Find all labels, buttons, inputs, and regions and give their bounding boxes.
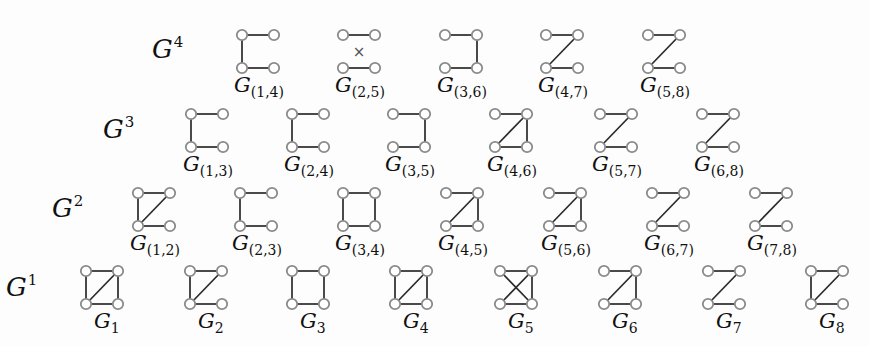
edge-diag (495, 114, 527, 147)
vertex-node (133, 188, 143, 198)
vertex-node (338, 30, 348, 40)
vertex-node (729, 109, 739, 119)
vertex-node (235, 188, 245, 198)
vertex-node (287, 109, 297, 119)
vertex-node (473, 221, 483, 231)
graph-5-7: G(5,7) (592, 109, 642, 179)
graph-label: G(1,4) (234, 73, 284, 100)
edge-diag (446, 193, 478, 226)
vertex-node (319, 142, 329, 152)
graph-6: G6 (599, 266, 641, 336)
graph-label: G(5,8) (640, 73, 690, 100)
vertex-node (627, 142, 637, 152)
vertex-node (627, 109, 637, 119)
level-label-sup: 1 (28, 271, 38, 289)
graph-3: G3 (287, 266, 329, 336)
graph-8: G8 (806, 266, 848, 336)
graph-label: G(3,4) (335, 231, 385, 258)
graph-label: G(1,3) (183, 152, 233, 179)
edge-diag (708, 271, 740, 304)
graph-label: G(2,4) (284, 152, 334, 179)
vertex-node (472, 30, 482, 40)
vertex-node (338, 63, 348, 73)
graph-4-5: G(4,5) (438, 188, 488, 258)
vertex-node (441, 221, 451, 231)
edge-diag (600, 114, 632, 147)
graph-label-sub: 6 (629, 320, 638, 336)
vertex-node (544, 221, 554, 231)
vertex-node (647, 188, 657, 198)
vertex-node (679, 221, 689, 231)
vertex-node (838, 299, 848, 309)
vertex-node (370, 221, 380, 231)
vertex-node (185, 266, 195, 276)
graph-label-sub: (4,6) (504, 163, 537, 179)
graph-label: G(4,6) (487, 152, 537, 179)
vertex-node (440, 30, 450, 40)
vertex-node (495, 266, 505, 276)
vertex-node (782, 221, 792, 231)
level-row-3: G3G(1,3)G(2,4)G(3,5)G(4,6)G(5,7)G(6,8) (103, 109, 744, 179)
graph-3-5: G(3,5) (385, 109, 435, 179)
vertex-node (490, 109, 500, 119)
vertex-node (544, 188, 554, 198)
level-label: G3 (103, 113, 134, 144)
graph-label-sub: 1 (111, 320, 120, 336)
vertex-node (679, 188, 689, 198)
vertex-node (576, 188, 586, 198)
graph-label: G(1,2) (130, 231, 180, 258)
graph-label-sub: (4,5) (455, 242, 488, 258)
graph-label-sub: (5,8) (657, 84, 690, 100)
vertex-node (218, 109, 228, 119)
vertex-node (267, 221, 277, 231)
vertex-node (729, 142, 739, 152)
level-label: G4 (152, 33, 183, 64)
graph-label-sub: (5,6) (558, 242, 591, 258)
vertex-node (675, 30, 685, 40)
vertex-node (319, 266, 329, 276)
vertex-node (370, 30, 380, 40)
graph-label-sub: 4 (420, 320, 429, 336)
graph-label-sub: (3,4) (352, 242, 385, 258)
graph-2-3: G(2,3) (232, 188, 282, 258)
graph-label-sub: 5 (525, 320, 534, 336)
vertex-node (541, 30, 551, 40)
graph-label-sub: (1,3) (200, 163, 233, 179)
level-label: G2 (52, 192, 83, 223)
vertex-node (420, 109, 430, 119)
graph-label-sub: (2,5) (352, 84, 385, 100)
vertex-node (782, 188, 792, 198)
graph-label: G(5,7) (592, 152, 642, 179)
level-label: G1 (6, 271, 37, 302)
vertex-node (473, 188, 483, 198)
graph-label: G(6,7) (644, 231, 694, 258)
vertex-node (287, 266, 297, 276)
edge-diag (648, 35, 680, 68)
vertex-node (217, 266, 227, 276)
vertex-node (186, 109, 196, 119)
graph-5-6: G(5,6) (541, 188, 591, 258)
vertex-node (237, 63, 247, 73)
graph-label: G(3,6) (437, 73, 487, 100)
edge-diag (190, 271, 222, 304)
vertex-node (490, 142, 500, 152)
graph-3-4: G(3,4) (335, 188, 385, 258)
vertex-node (370, 188, 380, 198)
vertex-node (750, 221, 760, 231)
vertex-node (388, 109, 398, 119)
edge-diag (652, 193, 684, 226)
graph-5-8: G(5,8) (640, 30, 690, 100)
graph-7: G7 (703, 266, 745, 336)
vertex-node (595, 142, 605, 152)
graph-2: G2 (185, 266, 227, 336)
graph-7-8: G(7,8) (747, 188, 797, 258)
vertex-node (269, 63, 279, 73)
vertex-node (113, 266, 123, 276)
graph-4-7: G(4,7) (538, 30, 588, 100)
vertex-node (185, 299, 195, 309)
vertex-node (522, 142, 532, 152)
vertex-node (81, 266, 91, 276)
graph-label: G1 (94, 309, 120, 336)
vertex-node (287, 299, 297, 309)
figure-svg: G4G(1,4)×G(2,5)G(3,6)G(4,7)G(5,8)G3G(1,3… (0, 0, 869, 346)
